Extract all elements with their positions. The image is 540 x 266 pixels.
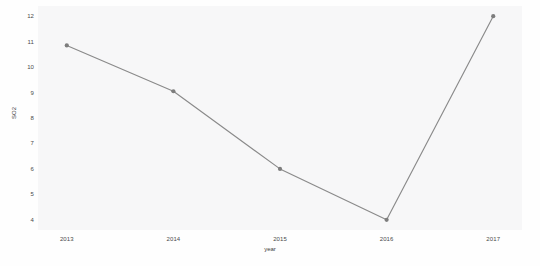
series-line-so2 [67, 16, 493, 220]
data-point [171, 89, 175, 93]
x-axis-title: year [0, 246, 540, 252]
y-axis-ticks: 456789101112 [0, 0, 34, 266]
data-point [278, 167, 282, 171]
x-axis-tick-label: 2014 [167, 236, 181, 242]
y-axis-tick-label: 12 [4, 13, 34, 19]
y-axis-tick-label: 10 [4, 64, 34, 70]
y-axis-tick-label: 8 [4, 115, 34, 121]
y-axis-tick-label: 7 [4, 140, 34, 146]
y-axis-tick-label: 4 [4, 217, 34, 223]
data-point [491, 14, 495, 18]
x-axis-tick-label: 2016 [380, 236, 394, 242]
y-axis-tick-label: 9 [4, 90, 34, 96]
data-point [385, 218, 389, 222]
y-axis-tick-label: 6 [4, 166, 34, 172]
data-point [65, 43, 69, 47]
x-axis-tick-label: 2013 [60, 236, 74, 242]
line-chart-plot [38, 6, 522, 230]
y-axis-tick-label: 11 [4, 39, 34, 45]
y-axis-title: SO2 [11, 107, 17, 119]
chart-figure: 456789101112 20132014201520162017 year S… [0, 0, 540, 266]
series-markers-so2 [65, 14, 496, 222]
x-axis-tick-label: 2015 [273, 236, 287, 242]
x-axis-tick-label: 2017 [486, 236, 500, 242]
y-axis-tick-label: 5 [4, 191, 34, 197]
